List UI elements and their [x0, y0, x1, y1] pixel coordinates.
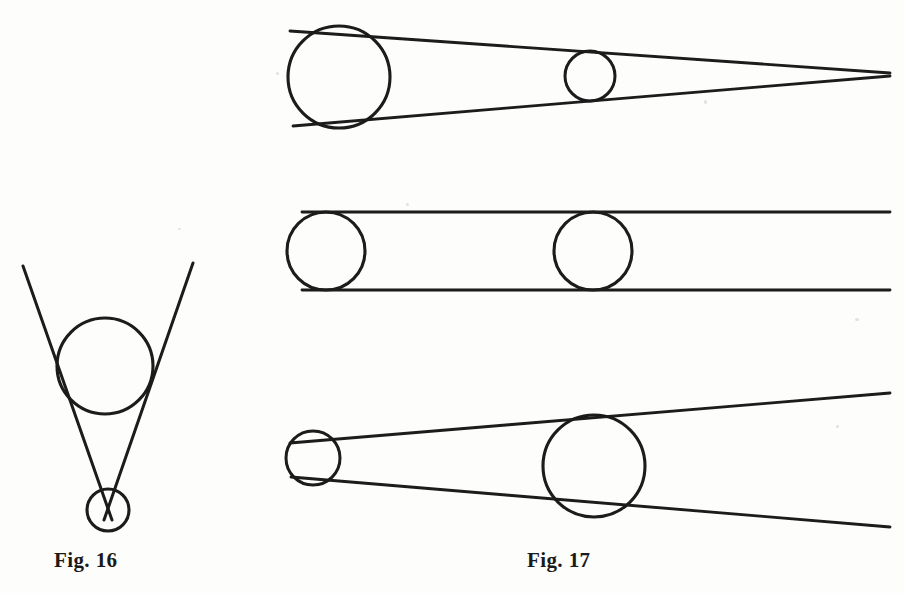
fig-16-tangent-line-right	[104, 263, 193, 520]
fig-16-drawing	[23, 263, 193, 531]
fig-17-parallel-right-circle	[554, 212, 632, 290]
fig-16-caption: Fig. 16	[54, 548, 117, 573]
scan-speck	[276, 72, 279, 75]
scan-speck	[836, 425, 839, 428]
fig-16-tangent-line-left	[23, 266, 112, 520]
fig-17-parallel-panel	[287, 212, 890, 290]
fig-17-converging-panel	[288, 26, 890, 128]
figure-plate: Fig. 16 Fig. 17	[0, 0, 904, 593]
fig-17-converging-right-circle	[565, 51, 615, 101]
fig-17-diverging-tangent-bottom	[291, 477, 890, 527]
fig-17-caption: Fig. 17	[527, 548, 590, 573]
scan-speck	[178, 228, 181, 230]
scan-speck	[855, 318, 859, 321]
scan-speck	[704, 100, 707, 104]
fig-17-diverging-panel	[286, 393, 890, 527]
fig-17-diverging-tangent-top	[290, 393, 890, 443]
scan-speck	[406, 203, 409, 206]
fig-17-parallel-left-circle	[287, 212, 365, 290]
figure-drawing-canvas	[0, 0, 904, 593]
fig-17-converging-tangent-top	[290, 31, 890, 73]
fig-17-converging-left-circle	[288, 26, 390, 128]
